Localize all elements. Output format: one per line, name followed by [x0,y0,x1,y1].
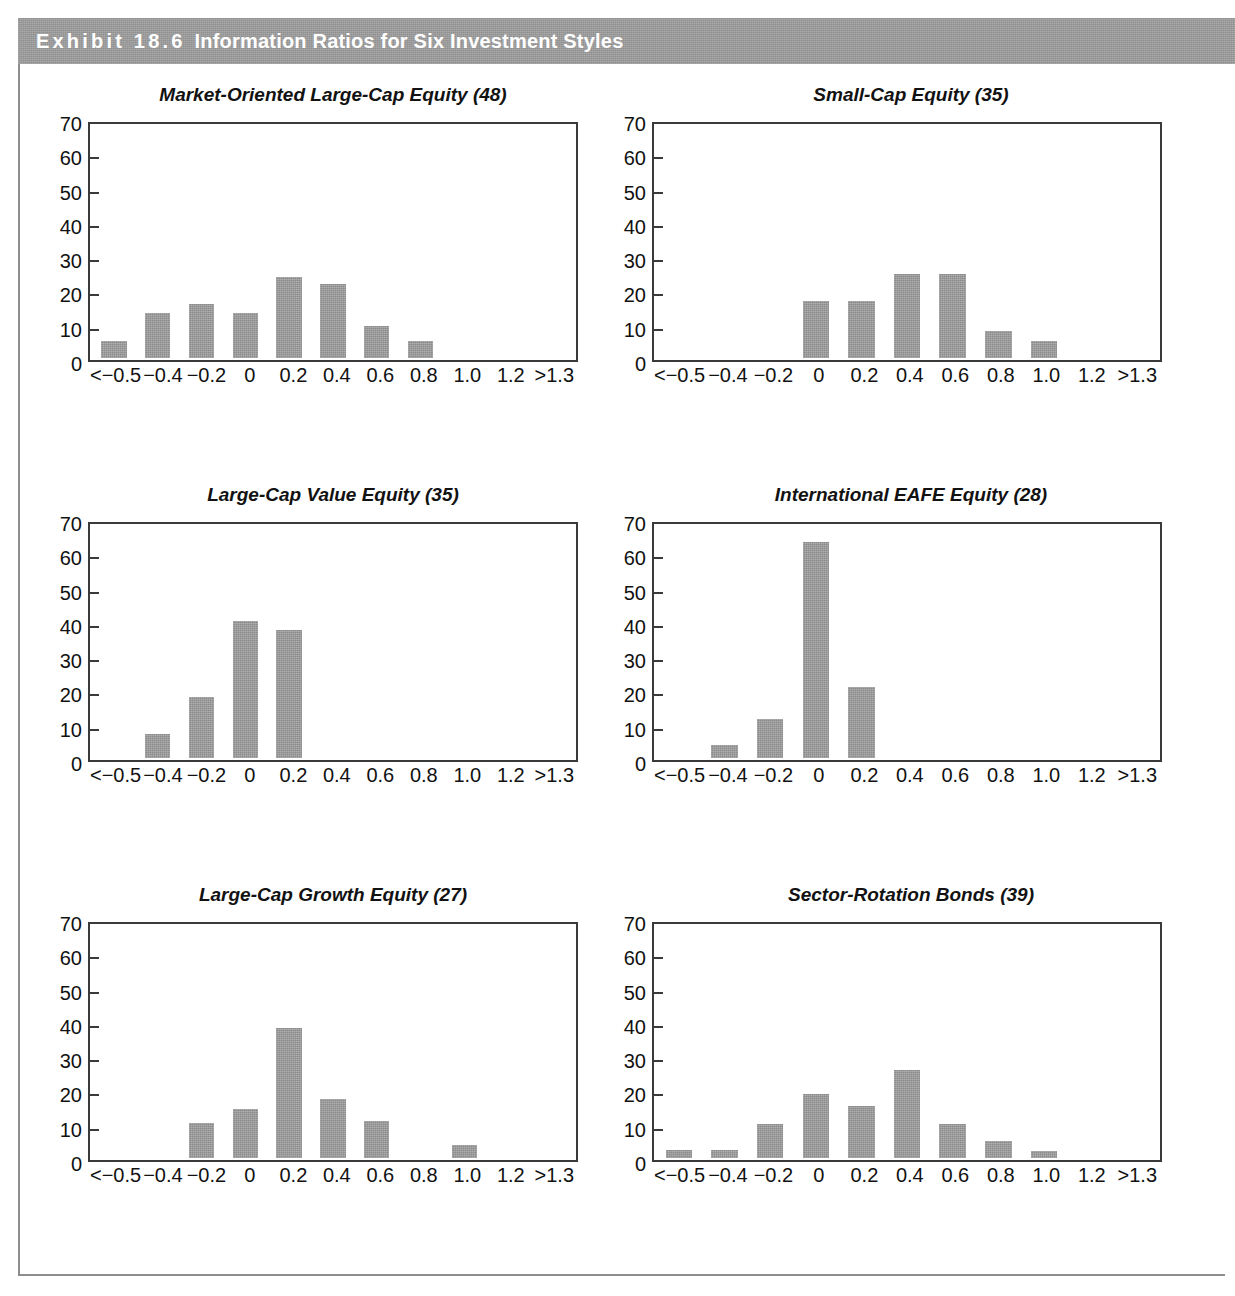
bar-slot [355,926,399,1158]
plot-frame: 706050403020100 [652,522,1162,762]
y-axis-tick-label: 20 [624,684,646,707]
bar [1031,341,1057,358]
chart-panel: Market-Oriented Large-Cap Equity (48)706… [22,78,602,478]
chart-title: Large-Cap Growth Equity (27) [22,884,602,906]
y-axis-tick-label: 0 [635,353,646,376]
bar-slot [92,926,136,1158]
bar [985,331,1011,358]
y-axis-tick-label: 50 [60,181,82,204]
plot-frame: 706050403020100 [88,122,578,362]
x-axis-tick-label: 1.2 [1069,364,1114,387]
bar-slot [136,926,180,1158]
bar [848,1106,874,1158]
y-axis-tick-label: 50 [60,981,82,1004]
y-axis-tick-label: 30 [60,1050,82,1073]
bar-slot [311,526,355,758]
x-axis-tick-label: −0.2 [751,364,796,387]
plot-frame: 706050403020100 [88,922,578,1162]
bar-slot [136,526,180,758]
y-axis-tick-label: 30 [60,650,82,673]
bar-slot [975,926,1021,1158]
bar-slot [311,926,355,1158]
x-axis-tick-label: 0.2 [842,364,887,387]
y-axis-tick-label: 0 [71,1153,82,1176]
bottom-border-rule [18,1274,1225,1276]
y-axis-tick-label: 10 [60,318,82,341]
bar-slot [1112,126,1158,358]
y-axis-tick-label: 0 [71,353,82,376]
y-axis-tick-label: 0 [71,753,82,776]
y-axis-tick-label: 50 [624,981,646,1004]
x-axis: <−0.5−0.4−0.200.20.40.60.81.01.2>1.3 [654,764,1160,787]
y-axis-tick-label: 40 [624,615,646,638]
y-axis-tick-label: 60 [60,547,82,570]
bar-slot [355,526,399,758]
x-axis-tick-label: 0.6 [933,1164,978,1187]
y-axis-tick-label: 60 [624,147,646,170]
bar-slot [702,926,748,1158]
bar [364,326,389,358]
x-axis-tick-label: >1.3 [533,764,576,787]
y-axis-tick-label: 70 [624,113,646,136]
chart-title: Large-Cap Value Equity (35) [22,484,602,506]
y-axis-tick-label: 50 [624,181,646,204]
x-axis-tick-label: −0.2 [751,764,796,787]
bar-slot [267,126,311,358]
y-axis-tick-label: 20 [60,684,82,707]
x-axis-tick-label: 0.4 [315,364,358,387]
x-axis-tick-label: −0.4 [141,1164,184,1187]
x-axis-tick-label: 0.2 [272,364,315,387]
bar-slot [884,926,930,1158]
bar-slot [399,926,443,1158]
chart-title: International EAFE Equity (28) [602,484,1202,506]
plot-area: 706050403020100<−0.5−0.4−0.200.20.40.60.… [88,922,578,1194]
x-axis-tick-label: <−0.5 [654,764,705,787]
plot-area: 706050403020100<−0.5−0.4−0.200.20.40.60.… [652,922,1162,1194]
y-axis-tick-label: 50 [624,581,646,604]
y-axis-tick-label: 70 [624,513,646,536]
plot-frame: 706050403020100 [652,922,1162,1162]
bar-slot [839,526,885,758]
x-axis-tick-label: 0 [796,1164,841,1187]
x-axis-tick-label: −0.2 [185,1164,228,1187]
bar-slot [223,126,267,358]
x-axis-tick-label: <−0.5 [90,364,141,387]
y-axis-tick-label: 10 [624,1118,646,1141]
x-axis-tick-label: −0.2 [185,764,228,787]
y-axis-tick-label: 40 [60,615,82,638]
bar-slot [975,126,1021,358]
y-axis-tick-label: 10 [624,718,646,741]
bar [364,1121,389,1158]
x-axis-tick-label: 0.8 [402,764,445,787]
x-axis-tick-label: 0.8 [978,1164,1023,1187]
bar [848,687,874,758]
bar [276,630,301,758]
y-axis-tick-label: 20 [624,1084,646,1107]
x-axis-tick-label: 1.2 [489,364,532,387]
bar-slot [530,926,574,1158]
bar-series [656,526,1158,758]
chart-title: Small-Cap Equity (35) [602,84,1202,106]
exhibit-figure: Exhibit 18.6Information Ratios for Six I… [0,0,1235,1296]
bar [757,719,783,758]
bar-slot [702,526,748,758]
x-axis-tick-label: 0.6 [933,364,978,387]
x-axis-tick-label: −0.4 [141,764,184,787]
bar [276,1028,301,1158]
y-axis-tick-label: 30 [60,250,82,273]
x-axis-tick-label: 0.4 [315,1164,358,1187]
bar [848,301,874,358]
plot-area: 706050403020100<−0.5−0.4−0.200.20.40.60.… [652,522,1162,794]
y-axis-tick-label: 70 [60,913,82,936]
x-axis-tick-label: 0.4 [887,764,932,787]
bar [894,274,920,358]
bar-series [656,126,1158,358]
x-axis: <−0.5−0.4−0.200.20.40.60.81.01.2>1.3 [654,364,1160,387]
y-axis-tick-label: 20 [60,284,82,307]
x-axis-tick-label: −0.2 [751,1164,796,1187]
bar [145,734,170,758]
y-axis-tick-label: 70 [60,513,82,536]
y-axis-tick-label: 60 [60,947,82,970]
bar [145,313,170,359]
bar [757,1124,783,1158]
